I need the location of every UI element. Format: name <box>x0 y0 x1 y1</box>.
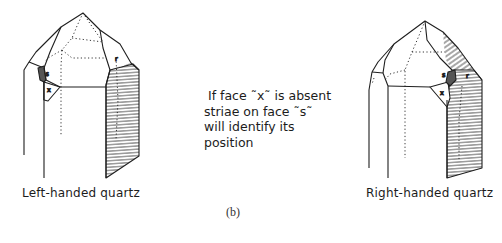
identification-note: If face ˜x˜ is absent striae on face ˜s˜… <box>204 88 331 150</box>
note-line-1: If face ˜x˜ is absent <box>204 88 331 104</box>
left-hatched-prism-face <box>106 64 139 178</box>
right-face-x-label: x <box>440 89 444 97</box>
quartz-handedness-figure: s x r <box>0 0 502 243</box>
left-face-x-label: x <box>47 86 51 94</box>
right-face-s-label: s <box>442 71 446 79</box>
note-line-4: position <box>204 135 331 151</box>
right-handed-crystal: s x r <box>369 21 482 178</box>
right-crystal-label: Right-handed quartz <box>366 186 493 200</box>
note-line-2: striae on face ˜s˜ <box>204 104 331 120</box>
left-face-s-label: s <box>46 70 50 78</box>
left-handed-crystal: s x r <box>24 13 139 178</box>
right-face-r-label: r <box>466 72 469 80</box>
note-line-3: will identify its <box>204 119 331 135</box>
left-face-r-label: r <box>115 55 118 63</box>
right-hatched-prism-face <box>447 70 482 178</box>
panel-caption: (b) <box>226 205 240 220</box>
left-crystal-label: Left-handed quartz <box>22 186 140 200</box>
